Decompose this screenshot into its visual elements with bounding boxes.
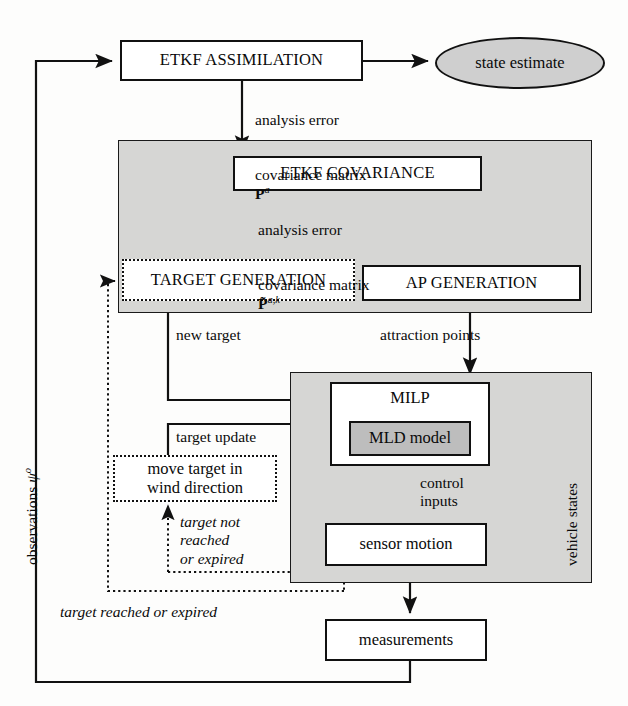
node-milp[interactable]: MILP MLD model <box>330 382 490 466</box>
node-ap-generation[interactable]: AP GENERATION <box>362 265 581 301</box>
edge-label-analysis-error-2: analysis error covariance matrix P̃a,k <box>258 203 369 332</box>
flowchart-canvas: ETKF ASSIMILATION state estimate ETKF CO… <box>0 0 628 706</box>
edge-label-control-inputs: control inputs <box>420 474 464 511</box>
observations-text: observations <box>23 487 40 565</box>
node-milp-label: MILP <box>332 389 488 407</box>
edge-label-target-reached: target reached or expired <box>60 603 217 621</box>
node-move-target[interactable]: move target in wind direction <box>113 455 277 502</box>
analysis-error-2-line-2: covariance matrix P̃a,k <box>258 258 369 314</box>
edge-label-attraction-points: attraction points <box>380 326 480 344</box>
p-tilde-matrix-superscript: a,k <box>267 294 280 305</box>
edge-label-new-target: new target <box>176 326 241 344</box>
node-measurements[interactable]: measurements <box>325 619 487 661</box>
p-matrix-superscript: a <box>264 184 269 195</box>
node-state-estimate[interactable]: state estimate <box>435 37 605 89</box>
node-etkf-assimilation[interactable]: ETKF ASSIMILATION <box>120 40 363 81</box>
observations-symbol: ψ <box>23 473 40 483</box>
observations-superscript: o <box>22 468 33 473</box>
edge-label-target-update: target update <box>176 428 256 446</box>
node-sensor-motion[interactable]: sensor motion <box>325 523 487 566</box>
edge-label-vehicle-states: vehicle states <box>563 483 581 566</box>
analysis-error-line-2: covariance matrix Pa <box>255 148 366 204</box>
analysis-error-line-1: analysis error <box>255 111 366 129</box>
node-mld-model[interactable]: MLD model <box>349 421 471 456</box>
edge-label-target-not-reached: target not reached or expired <box>180 513 244 568</box>
edge-label-observations: observations ψo <box>22 468 41 565</box>
analysis-error-2-line-1: analysis error <box>258 221 369 239</box>
covariance-matrix-text-2: covariance matrix <box>258 276 369 293</box>
covariance-matrix-text: covariance matrix <box>255 166 366 183</box>
